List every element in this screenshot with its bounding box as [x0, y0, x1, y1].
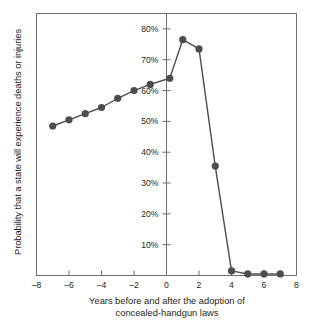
x-tick-label: –4: [97, 280, 107, 290]
y-tick-label: 30%: [141, 178, 159, 188]
x-tick-label: 0: [164, 280, 169, 290]
y-tick-label: 10%: [141, 240, 159, 250]
data-point-marker: [228, 267, 235, 274]
y-tick-label: 40%: [141, 147, 159, 157]
x-tick-label: 4: [229, 280, 234, 290]
y-tick-label: 80%: [141, 24, 159, 34]
data-point-marker: [260, 270, 267, 277]
data-point-marker: [65, 116, 72, 123]
data-point-marker: [114, 95, 121, 102]
x-axis-label: Years before and after the adoption of c…: [36, 296, 298, 319]
data-point-marker: [147, 81, 154, 88]
x-axis-label-line1: Years before and after the adoption of: [89, 296, 245, 306]
data-point-marker: [98, 104, 105, 111]
x-tick-label: 2: [197, 280, 202, 290]
data-point-marker: [166, 75, 173, 82]
y-tick-label: 50%: [141, 116, 159, 126]
chart-plot-area: –8–6–4–202468 10%20%30%40%50%60%70%80%: [0, 0, 322, 330]
y-tick-label: 20%: [141, 209, 159, 219]
chart-figure: Probability that a state will experience…: [0, 0, 322, 330]
x-tick-label: –6: [64, 280, 74, 290]
data-point-marker: [212, 162, 219, 169]
data-point-marker: [49, 122, 56, 129]
data-point-marker: [130, 87, 137, 94]
x-axis-label-line2: concealed-handgun laws: [36, 308, 298, 320]
x-tick-label: 8: [294, 280, 299, 290]
data-point-marker: [277, 270, 284, 277]
data-point-marker: [82, 110, 89, 117]
data-point-marker: [179, 36, 186, 43]
x-tick-label: 6: [262, 280, 267, 290]
x-tick-label: –8: [32, 280, 42, 290]
x-tick-label: –2: [129, 280, 139, 290]
y-tick-label: 70%: [141, 55, 159, 65]
data-point-marker: [244, 270, 251, 277]
data-point-marker: [195, 45, 202, 52]
